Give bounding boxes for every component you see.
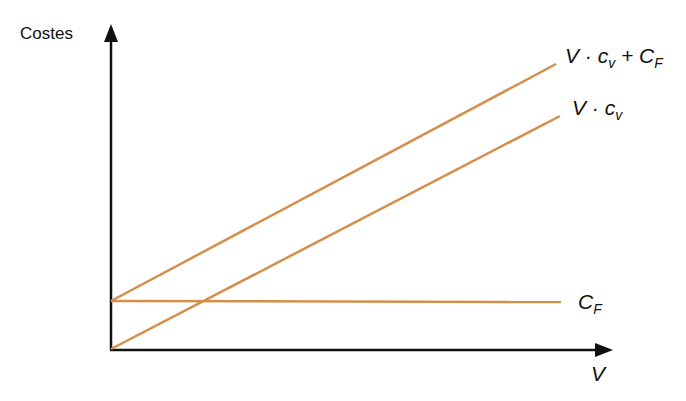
total-cost-line bbox=[111, 64, 556, 301]
fixed-cost-line bbox=[111, 301, 561, 302]
total-cost-label: V · cv + CF bbox=[565, 44, 663, 71]
variable-cost-line bbox=[111, 116, 560, 349]
x-axis-arrow-icon bbox=[595, 343, 613, 357]
x-axis-label: V bbox=[591, 362, 605, 386]
variable-cost-label: V · cv bbox=[572, 96, 622, 123]
y-axis-arrow-icon bbox=[104, 24, 118, 42]
fixed-cost-label: CF bbox=[578, 290, 602, 317]
y-axis-label: Costes bbox=[20, 24, 73, 44]
